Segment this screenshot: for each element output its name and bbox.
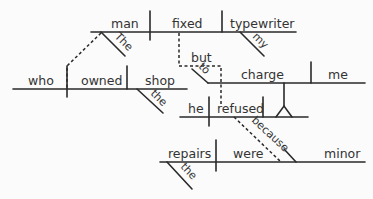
sentence-diagram: man fixed typewriter The my who owned sh… <box>0 0 373 199</box>
word-the-repairs: the <box>178 160 200 182</box>
word-The: The <box>111 29 136 54</box>
word-typewriter: typewriter <box>230 16 295 31</box>
word-were: were <box>233 146 264 161</box>
word-repairs: repairs <box>168 146 211 161</box>
word-the-shop: the <box>148 87 170 109</box>
complement-divider <box>284 149 296 162</box>
subordinate-clause: repairs were minor the <box>160 140 365 189</box>
relative-clause: who owned shop the <box>13 66 187 113</box>
word-charge: charge <box>241 67 284 82</box>
word-my: my <box>250 30 272 52</box>
word-me: me <box>328 67 348 82</box>
word-owned: owned <box>81 73 122 88</box>
stand-fork <box>276 106 292 117</box>
word-man: man <box>111 16 139 31</box>
word-he: he <box>188 101 204 116</box>
word-shop: shop <box>145 73 175 88</box>
word-minor: minor <box>324 146 361 161</box>
word-who: who <box>28 73 54 88</box>
word-fixed: fixed <box>172 16 203 31</box>
